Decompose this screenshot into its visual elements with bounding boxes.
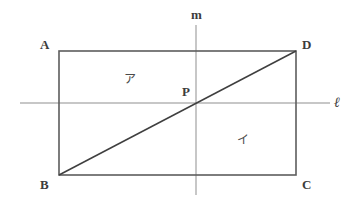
vertex-label-b: B	[40, 178, 49, 191]
diagram-canvas	[0, 0, 361, 203]
region-label-lower: イ	[237, 134, 249, 146]
line-label-l: ℓ	[334, 95, 340, 109]
region-label-upper: ア	[124, 73, 136, 85]
vertex-label-d: D	[302, 38, 311, 51]
geometry-diagram: A B C D P m ℓ ア イ	[0, 0, 361, 203]
vertex-label-c: C	[302, 178, 311, 191]
line-label-m: m	[191, 8, 202, 21]
point-label-p: P	[182, 85, 190, 98]
diagonal-bd	[59, 51, 296, 175]
vertex-label-a: A	[40, 38, 49, 51]
